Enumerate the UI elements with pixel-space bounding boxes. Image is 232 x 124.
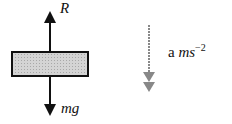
block [12,52,88,76]
accel-exponent: −2 [195,42,206,53]
acceleration-arrow [143,25,155,92]
accel-unit: ms [178,44,195,60]
reaction-label: R [60,0,69,17]
accel-prefix: a [168,44,175,60]
free-body-diagram [0,0,232,124]
reaction-force-arrow [44,11,56,52]
acceleration-label: a ms−2 [168,42,206,61]
weight-force-arrow [44,76,56,116]
weight-label: mg [61,100,79,117]
